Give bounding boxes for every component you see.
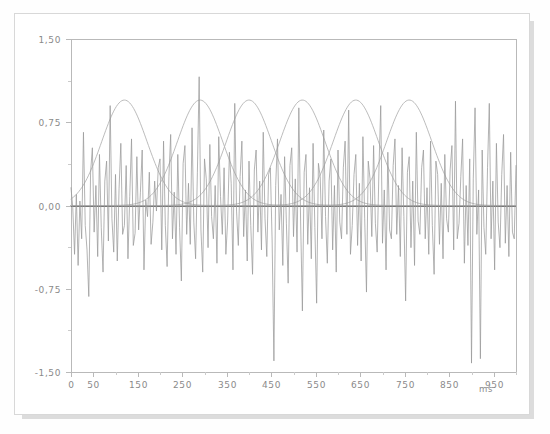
y-tick-label: -0,75 [35,285,61,295]
chart-card: 050150250350450550650750850950 -1,50-0,7… [14,13,530,415]
y-tick-label: 1,50 [39,35,61,45]
screenshot-root: 050150250350450550650750850950 -1,50-0,7… [0,0,550,434]
waveform-chart: 050150250350450550650750850950 -1,50-0,7… [15,14,531,416]
y-tick-label: 0,75 [39,118,61,128]
x-tick-label: 350 [218,380,237,390]
signal-waveform [71,77,516,363]
x-tick-label: 0 [68,380,74,390]
x-axis-tick-labels: 050150250350450550650750850950 [68,380,504,390]
x-tick-label: 850 [440,380,459,390]
chart-area: 050150250350450550650750850950 -1,50-0,7… [15,14,531,416]
x-tick-label: 250 [173,380,192,390]
y-tick-label: -1,50 [35,368,61,378]
x-axis-unit-label: ms [479,384,493,394]
x-tick-label: 150 [129,380,148,390]
x-tick-label: 450 [262,380,281,390]
y-axis-ticks [66,40,71,373]
y-axis-tick-labels: -1,50-0,750,000,751,50 [35,35,61,378]
x-tick-label: 50 [87,380,100,390]
x-tick-label: 550 [307,380,326,390]
x-tick-label: 650 [351,380,370,390]
x-tick-label: 750 [396,380,415,390]
y-tick-label: 0,00 [39,202,61,212]
